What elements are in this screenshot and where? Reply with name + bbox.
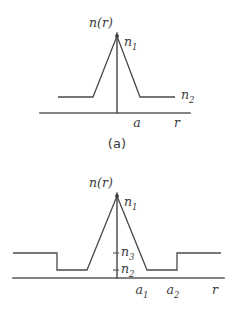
panel-a-peak-marker xyxy=(115,34,119,38)
panel-b-peak-label-base: n xyxy=(124,194,132,209)
panel-b-x-tick-label-a2-sub: 2 xyxy=(173,290,179,300)
panel-a-x-tick-label-a: a xyxy=(133,115,140,130)
panel-b-x-tick-label-a1-base: a xyxy=(136,282,143,297)
panel-a-x-axis-label: r xyxy=(174,115,181,130)
panel-b-level2-label: n2 xyxy=(121,261,134,279)
panel-b-x-axis-label: r xyxy=(212,282,219,297)
panel-a-peak-label-sub: 1 xyxy=(132,42,137,52)
panel-a-cladding-label: n2 xyxy=(181,87,194,105)
panel-b-peak-label: n1 xyxy=(124,194,137,212)
panel-a-y-axis-label: n(r) xyxy=(89,15,113,30)
panel-a-peak-label-base: n xyxy=(124,34,132,49)
panel-b-peak-label-sub: 1 xyxy=(132,202,137,212)
panel-b-x-tick-label-a2-base: a xyxy=(167,282,174,297)
panel-a-peak-label: n1 xyxy=(124,34,137,52)
panel-b-y-axis-label: n(r) xyxy=(89,175,113,190)
panel-a: n(r) n1 n2 a r (a) xyxy=(0,0,234,165)
panel-b-x-tick-label-a2: a2 xyxy=(167,282,180,300)
panel-b-level3-label-base: n xyxy=(121,244,129,259)
panel-b-peak-marker xyxy=(115,194,119,198)
panel-b-x-tick-label-a1: a1 xyxy=(136,282,149,300)
panel-b: n(r) n1 n3 n2 a1 a2 r (b) xyxy=(0,165,234,330)
panel-b-level3-label: n3 xyxy=(121,244,134,262)
panel-b-level2-label-base: n xyxy=(121,261,129,276)
panel-b-plot: n(r) n1 n3 n2 a1 a2 r xyxy=(0,165,234,305)
panel-a-cladding-label-base: n xyxy=(181,87,189,102)
panel-a-cladding-label-sub: 2 xyxy=(188,95,194,105)
panel-b-level3-label-sub: 3 xyxy=(129,252,134,262)
panel-a-plot: n(r) n1 n2 a r xyxy=(0,0,234,136)
panel-b-level2-label-sub: 2 xyxy=(128,269,134,279)
panel-a-caption: (a) xyxy=(0,136,234,151)
figure-sheet: n(r) n1 n2 a r (a) n(r) xyxy=(0,0,234,330)
panel-b-x-tick-label-a1-sub: 1 xyxy=(143,290,148,300)
